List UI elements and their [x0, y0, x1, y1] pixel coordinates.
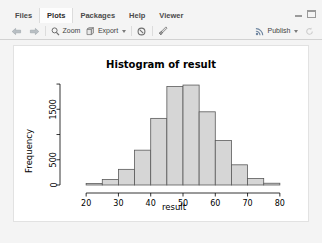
tab-plots-label: Plots [47, 11, 65, 20]
zoom-button[interactable]: Zoom [48, 23, 83, 39]
tab-files[interactable]: Files [8, 8, 39, 23]
x-axis-tick-label: 20 [81, 199, 91, 208]
refresh-icon[interactable] [301, 23, 317, 39]
histogram-bar [167, 87, 183, 185]
export-button-label: Export [98, 23, 118, 39]
histogram-plot: Histogram of result Frequency result 050… [14, 46, 308, 221]
histogram-bar [248, 178, 264, 185]
publish-button-label: Publish [268, 23, 291, 39]
plots-toolbar: Zoom Export [0, 23, 322, 40]
rstudio-plots-pane: Files Plots Packages Help Viewer [0, 0, 322, 243]
chevron-down-icon[interactable] [294, 30, 298, 33]
histogram-bar [231, 165, 247, 185]
magnifier-icon [51, 27, 60, 36]
remove-plot-icon[interactable] [134, 23, 150, 39]
x-axis-tick-label: 50 [178, 199, 188, 208]
histogram-bar [264, 183, 280, 185]
toolbar-right-group: Publish [252, 23, 317, 39]
y-axis-label: Frequency [24, 129, 34, 173]
toolbar-separator-2 [131, 26, 132, 36]
histogram-bar [135, 150, 151, 185]
histogram-bar [183, 85, 199, 185]
export-button[interactable]: Export [83, 23, 128, 39]
histogram-bar [102, 179, 118, 185]
tab-help-label: Help [129, 11, 145, 20]
x-axis-tick-label: 80 [275, 199, 285, 208]
tab-viewer-label: Viewer [159, 11, 183, 20]
histogram-bar [199, 112, 215, 185]
toolbar-separator-3 [152, 26, 153, 36]
maximize-icon[interactable] [307, 10, 316, 19]
y-axis-tick-label: 1500 [50, 99, 59, 119]
export-icon [86, 27, 95, 36]
x-axis-tick-label: 60 [210, 199, 220, 208]
forward-arrow-icon[interactable] [25, 23, 43, 39]
toolbar-separator-1 [45, 26, 46, 36]
histogram-bar [215, 141, 231, 185]
histogram-bar [118, 169, 134, 185]
histogram-bar [151, 118, 167, 185]
histogram-bars [86, 85, 280, 185]
back-arrow-icon[interactable] [7, 23, 25, 39]
y-axis: 05001500 [50, 84, 61, 187]
tab-list: Files Plots Packages Help Viewer [8, 8, 190, 23]
tab-packages[interactable]: Packages [73, 8, 122, 23]
plot-title: Histogram of result [106, 59, 216, 70]
tab-viewer[interactable]: Viewer [152, 8, 190, 23]
toolbar-left-group: Zoom Export [7, 23, 172, 39]
x-axis: 20304050607080 [81, 193, 285, 208]
tab-help[interactable]: Help [122, 8, 152, 23]
y-axis-tick-label: 0 [50, 182, 59, 187]
tab-files-label: Files [15, 11, 32, 20]
x-axis-tick-label: 70 [242, 199, 252, 208]
x-axis-tick-label: 40 [146, 199, 156, 208]
zoom-button-label: Zoom [63, 23, 81, 39]
clear-all-plots-icon[interactable] [155, 23, 172, 39]
y-axis-tick-label: 500 [50, 152, 59, 167]
tab-plots[interactable]: Plots [39, 8, 73, 23]
chevron-down-icon[interactable] [122, 30, 126, 33]
tab-packages-label: Packages [80, 11, 115, 20]
pane-tabstrip: Files Plots Packages Help Viewer [0, 8, 322, 24]
minimize-icon[interactable] [294, 10, 303, 19]
window-controls [294, 10, 316, 19]
publish-button[interactable]: Publish [252, 23, 301, 39]
publish-icon [255, 27, 265, 36]
plot-display-area[interactable]: Histogram of result Frequency result 050… [13, 45, 309, 222]
histogram-bar [86, 183, 102, 185]
x-axis-tick-label: 30 [113, 199, 123, 208]
